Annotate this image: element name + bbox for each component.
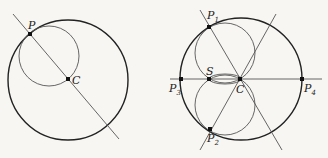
right-figure: P1 P2 P3 P4 S C	[168, 9, 322, 150]
geometry-diagram: P C P1 P2 P3 P4 S C	[0, 0, 328, 158]
point-P2	[208, 127, 212, 131]
label-P: P	[27, 19, 36, 32]
left-figure: P C	[8, 14, 128, 140]
label-S: S	[206, 65, 214, 78]
label-P4: P4	[303, 82, 316, 97]
label-P1: P1	[206, 9, 219, 24]
point-C-left	[66, 77, 70, 81]
point-P	[28, 32, 32, 36]
label-C-right: C	[236, 83, 245, 96]
point-P3	[179, 77, 183, 81]
point-C-right	[238, 77, 242, 81]
label-C-left: C	[72, 74, 81, 87]
label-P3: P3	[168, 82, 181, 97]
point-P4	[300, 77, 304, 81]
point-P1	[207, 25, 211, 29]
